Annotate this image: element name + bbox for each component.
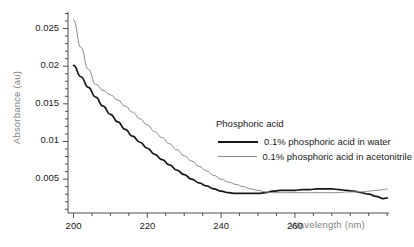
axis-lines — [68, 12, 389, 213]
y-tick-label: 0.02 — [0, 59, 59, 70]
chart-legend: Phosphoric acid 0.1% phosphoric acid in … — [216, 118, 412, 164]
x-axis-ticks — [74, 213, 388, 218]
x-tick-label: 200 — [54, 220, 94, 231]
y-tick-label: 0.015 — [0, 97, 59, 108]
legend-swatch-water-icon — [218, 141, 258, 143]
legend-item-water: 0.1% phosphoric acid in water — [216, 134, 412, 149]
x-tick-label: 240 — [201, 220, 241, 231]
data-series-lines — [74, 20, 388, 199]
legend-swatch-acetonitrile-icon — [218, 156, 257, 157]
y-tick-label: 0.005 — [0, 172, 59, 183]
legend-label-water: 0.1% phosphoric acid in water — [264, 136, 391, 147]
legend-title: Phosphoric acid — [216, 118, 412, 129]
series-line-acetonitrile — [74, 20, 388, 193]
y-tick-label: 0.025 — [0, 22, 59, 33]
legend-label-acetonitrile: 0.1% phosphoric acid in acetonitrile — [263, 151, 412, 162]
y-axis-ticks — [63, 14, 68, 210]
y-tick-label: 0.01 — [0, 134, 59, 145]
x-tick-label: 260 — [275, 220, 315, 231]
legend-item-acetonitrile: 0.1% phosphoric acid in acetonitrile — [216, 149, 412, 164]
chart-figure: Absorbance (au) Wavelength (nm) 0.0050.0… — [0, 0, 414, 247]
x-tick-label: 220 — [127, 220, 167, 231]
